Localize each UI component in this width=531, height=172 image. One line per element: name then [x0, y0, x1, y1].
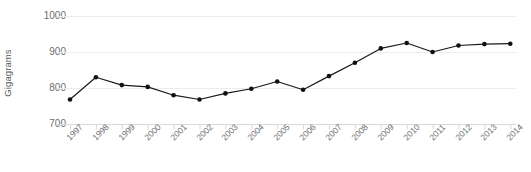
x-tick-label: 2003 — [220, 123, 239, 142]
x-tick-label: 2002 — [195, 123, 214, 142]
line-chart: Gigagrams 7008009001000 1997199819992000… — [0, 0, 531, 172]
x-tick-label: 2008 — [350, 123, 369, 142]
x-tick-label: 2009 — [376, 123, 395, 142]
x-tick-label: 2014 — [505, 123, 524, 142]
x-tick-label: 2006 — [298, 123, 317, 142]
x-tick-label: 1999 — [117, 123, 136, 142]
x-tick-label: 2012 — [454, 123, 473, 142]
x-tick-label: 2001 — [169, 123, 188, 142]
x-tick-label: 2010 — [402, 123, 421, 142]
x-tick-label: 1998 — [91, 123, 110, 142]
x-tick-label: 2013 — [479, 123, 498, 142]
x-tick-label: 2004 — [246, 123, 265, 142]
x-tick-label: 2005 — [272, 123, 291, 142]
x-axis-tick-labels: 1997199819992000200120022003200420052006… — [0, 0, 531, 172]
x-tick-label: 2007 — [324, 123, 343, 142]
x-tick-label: 2011 — [428, 123, 447, 142]
x-tick-label: 2000 — [143, 123, 162, 142]
x-tick-label: 1997 — [65, 123, 84, 142]
